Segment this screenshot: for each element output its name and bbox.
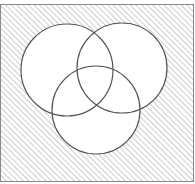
venn-diagram: [0, 0, 195, 184]
